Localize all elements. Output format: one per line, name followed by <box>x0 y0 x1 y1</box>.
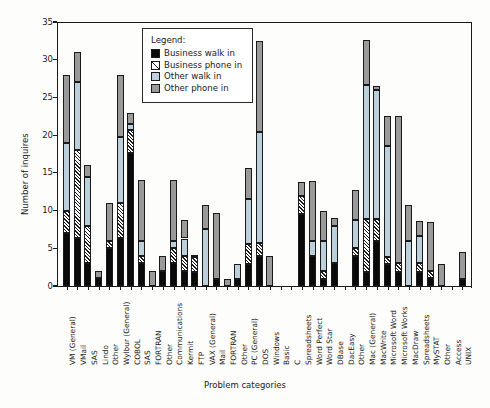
bar-segment-other-phone-in <box>395 116 402 264</box>
bar-segment-other-walk-in <box>63 143 70 211</box>
x-tick-label: Mac (General) <box>369 313 376 365</box>
legend-item[interactable]: Other walk in <box>151 72 242 81</box>
bar-segment-business-walk-in <box>234 279 241 286</box>
chart-container: 05101520253035 Number of inquires VM (Ge… <box>0 0 490 408</box>
bar-segment-business-phone-in <box>191 257 198 271</box>
x-tick-label: FORTRAN <box>230 330 237 365</box>
bar-group <box>58 22 471 286</box>
x-tick-label: UNIX <box>465 347 472 365</box>
bar-segment-other-phone-in <box>363 40 370 85</box>
bar-segment-business-walk-in <box>373 241 380 286</box>
y-tick-mark <box>53 97 57 98</box>
legend-item-label: Business walk in <box>164 49 235 58</box>
y-tick-mark <box>53 172 57 173</box>
bar-segment-business-phone-in <box>416 263 423 271</box>
bar-segment-business-walk-in <box>395 272 402 286</box>
x-tick-label: MacWrite <box>380 331 387 365</box>
bar-segment-other-phone-in <box>213 213 220 279</box>
bar-segment-other-walk-in <box>138 241 145 256</box>
bar-segment-business-walk-in <box>127 153 134 287</box>
bar-segment-other-walk-in <box>331 226 338 264</box>
y-tick-label: 10 <box>13 206 53 215</box>
x-tick-label: Word Star <box>326 328 333 365</box>
x-tick-label: Kermit <box>187 341 194 365</box>
bar-segment-business-walk-in <box>298 214 305 286</box>
x-tick-label: Microsoft Word <box>390 310 397 365</box>
bar-segment-business-walk-in <box>63 233 70 286</box>
bar-segment-business-phone-in <box>181 256 188 271</box>
legend-item[interactable]: Other phone in <box>151 84 242 93</box>
bar-segment-other-phone-in <box>320 211 327 241</box>
bar-segment-other-walk-in <box>117 137 124 203</box>
bar-segment-other-phone-in <box>416 221 423 236</box>
bar-segment-business-walk-in <box>459 279 466 286</box>
bar-segment-business-walk-in <box>74 238 81 286</box>
bar-segment-other-walk-in <box>191 255 198 257</box>
x-tick-label: FORTRAN <box>155 330 162 365</box>
bar-segment-other-walk-in <box>309 241 316 256</box>
bar-segment-other-walk-in <box>170 241 177 249</box>
x-tick-label: Other <box>166 344 173 365</box>
x-tick-label: Windows <box>273 332 280 365</box>
bar-segment-other-phone-in <box>138 180 145 240</box>
legend-swatch-icon <box>151 49 160 58</box>
y-tick-label: 5 <box>13 244 53 253</box>
bar-segment-business-phone-in <box>320 271 327 279</box>
bar-segment-other-walk-in <box>416 236 423 263</box>
bar-segment-other-walk-in <box>352 220 359 248</box>
bar-segment-business-phone-in <box>352 248 359 256</box>
y-tick-mark <box>53 285 57 286</box>
bar-segment-business-phone-in <box>84 226 91 264</box>
x-tick-label: SAS <box>144 350 151 365</box>
x-tick-label: MacDraw <box>412 331 419 365</box>
y-tick-label: 20 <box>13 131 53 140</box>
bar-segment-other-phone-in <box>256 41 263 132</box>
x-tick-label: PC (General) <box>251 318 258 365</box>
bar-segment-business-walk-in <box>416 272 423 286</box>
bar-segment-business-phone-in <box>170 248 177 263</box>
x-tick-label: MySTAT <box>433 337 440 365</box>
bar-segment-other-phone-in <box>266 256 273 286</box>
y-tick-mark <box>53 248 57 249</box>
legend-item[interactable]: Business phone in <box>151 61 242 70</box>
legend: Legend: Business walk inBusiness phone i… <box>142 28 253 103</box>
bar-segment-other-walk-in <box>84 177 91 226</box>
bar-segment-other-phone-in <box>63 75 70 143</box>
bar-segment-business-walk-in <box>138 263 145 286</box>
y-tick-label: 0 <box>13 282 53 291</box>
bar-segment-other-phone-in <box>149 271 156 286</box>
bar-segment-other-walk-in <box>181 239 188 256</box>
bar-segment-other-phone-in <box>127 113 134 124</box>
plot-frame-right <box>471 22 472 288</box>
bar-segment-other-phone-in <box>298 182 305 196</box>
bar-segment-other-phone-in <box>74 52 81 82</box>
bar-segment-business-phone-in <box>256 243 263 256</box>
bar-segment-other-phone-in <box>159 256 166 271</box>
bar-segment-other-phone-in <box>95 271 102 279</box>
legend-item[interactable]: Business walk in <box>151 49 242 58</box>
x-tick-label: VAX (General) <box>209 313 216 365</box>
bar-segment-business-walk-in <box>106 248 113 286</box>
y-tick-mark <box>53 21 57 22</box>
x-tick-label: Basic <box>283 345 290 365</box>
x-tick-label: DacEasy <box>348 333 355 365</box>
bar-segment-other-phone-in <box>459 252 466 279</box>
x-tick-label: Wylbur (General) <box>123 302 130 365</box>
bar-segment-other-phone-in <box>106 203 113 241</box>
bar-segment-business-phone-in <box>298 196 305 214</box>
bar-segment-business-walk-in <box>352 256 359 286</box>
bar-segment-other-phone-in <box>245 168 252 200</box>
y-tick-mark <box>53 59 57 60</box>
bar-segment-other-phone-in <box>117 75 124 138</box>
x-tick-label: Communications <box>176 303 183 365</box>
y-tick-label: 25 <box>13 93 53 102</box>
legend-item-label: Other walk in <box>164 72 221 81</box>
x-tick-label: Microsoft Works <box>401 306 408 365</box>
x-tick-label: Spreadsheets <box>305 315 312 365</box>
x-tick-label: Access <box>455 340 462 365</box>
x-tick-label: Lindo <box>102 345 109 365</box>
bar-segment-other-walk-in <box>245 199 252 244</box>
bar-segment-other-phone-in <box>438 264 445 286</box>
bar-segment-business-walk-in <box>159 271 166 286</box>
y-tick-label: 15 <box>13 168 53 177</box>
